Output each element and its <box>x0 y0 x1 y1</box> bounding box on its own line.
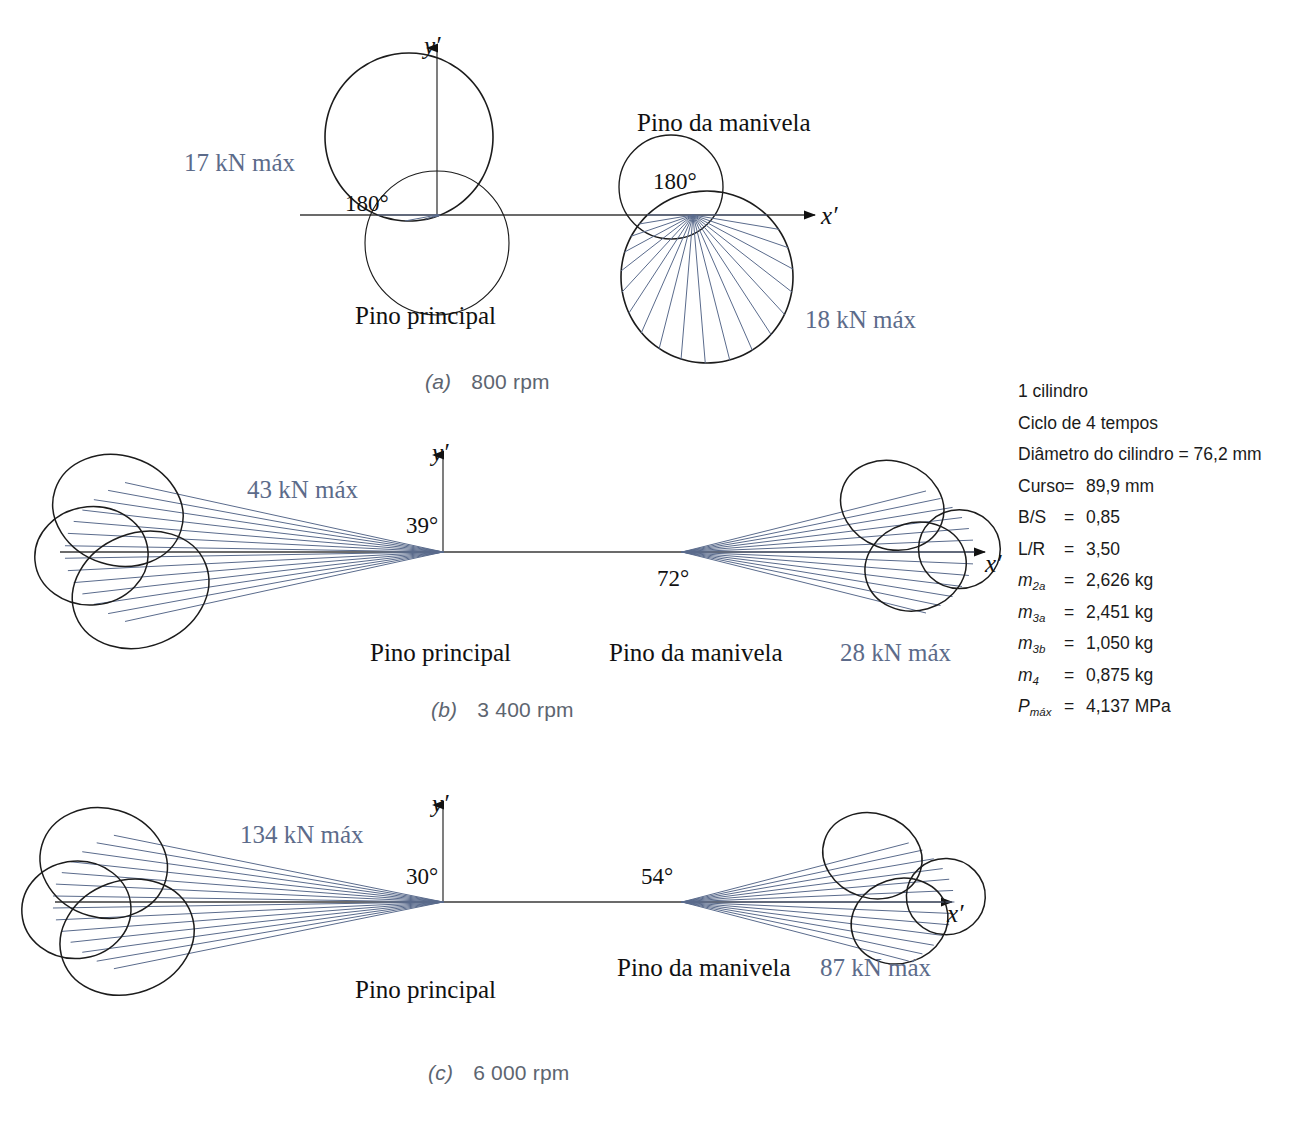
panel-b-caption-letter: (b) <box>431 698 457 721</box>
param-row: m4=0,875 kg <box>1018 665 1262 697</box>
load-ray <box>83 552 443 594</box>
panel-b-y-axis-label: y′ <box>432 440 449 465</box>
param-bore: Diâmetro do cilindro = 76,2 mm <box>1018 444 1262 476</box>
param-value: 2,626 kg <box>1086 570 1153 591</box>
param-value: 0,85 <box>1086 507 1120 528</box>
load-ray <box>83 852 443 902</box>
envelope-circle <box>38 438 198 583</box>
param-value: 89,9 mm <box>1086 476 1154 497</box>
param-symbol: m3a <box>1018 602 1064 623</box>
panel-b-caption: (b) 3 400 rpm <box>431 699 574 720</box>
load-ray <box>682 552 926 613</box>
param-value: 1,050 kg <box>1086 633 1153 654</box>
load-ray <box>71 902 443 942</box>
panel-b-main-pin-name: Pino principal <box>370 640 511 665</box>
param-symbol: L/R <box>1018 539 1064 560</box>
load-ray <box>125 552 443 621</box>
param-symbol: m4 <box>1018 665 1064 686</box>
param-symbol: B/S <box>1018 507 1064 528</box>
panel-b-x-axis-label: x′ <box>985 551 1002 576</box>
param-rows: Curso=89,9 mmB/S=0,85L/R=3,50m2a=2,626 k… <box>1018 476 1262 728</box>
param-row: B/S=0,85 <box>1018 507 1262 539</box>
param-symbol: Pmáx <box>1018 696 1064 717</box>
envelope-circle <box>812 800 934 911</box>
load-ray <box>693 215 784 314</box>
param-row: m3b=1,050 kg <box>1018 633 1262 665</box>
param-equals: = <box>1064 539 1086 560</box>
load-ray <box>109 552 443 614</box>
panel-a-caption-letter: (a) <box>425 370 451 393</box>
panel-c-x-axis-label: x′ <box>947 901 964 926</box>
panel-b-crank-pin-name: Pino da manivela <box>609 640 783 665</box>
param-row: m2a=2,626 kg <box>1018 570 1262 602</box>
panel-c-main-pin-name: Pino principal <box>355 977 496 1002</box>
load-ray <box>682 902 953 914</box>
envelope-circle <box>854 510 976 622</box>
panel-c-crank-pin-name: Pino da manivela <box>617 955 791 980</box>
load-ray <box>97 902 443 961</box>
envelope-curve <box>621 191 793 363</box>
panel-a-caption: (a) 800 rpm <box>425 371 550 392</box>
panel-a-y-axis-label: y′ <box>424 33 441 58</box>
envelope-circle <box>55 511 227 669</box>
param-value: 4,137 MPa <box>1086 696 1171 717</box>
panel-c-main-pin-angle: 30° <box>406 865 438 888</box>
param-value: 2,451 kg <box>1086 602 1153 623</box>
param-symbol: Curso <box>1018 476 1064 497</box>
load-ray <box>71 862 443 902</box>
load-ray <box>682 529 968 552</box>
param-value: 3,50 <box>1086 539 1120 560</box>
load-ray <box>682 491 926 552</box>
param-value: 0,875 kg <box>1086 665 1153 686</box>
param-row: m3a=2,451 kg <box>1018 602 1262 634</box>
param-equals: = <box>1064 602 1086 623</box>
panel-b-main-pin-angle: 39° <box>406 514 438 537</box>
panel-c-main-pin-max-load: 134 kN máx <box>240 822 364 847</box>
panel-c-crank-pin-angle: 54° <box>641 865 673 888</box>
panel-b-crank-pin-angle: 72° <box>657 567 689 590</box>
panel-a-caption-value: 800 rpm <box>471 370 549 393</box>
load-ray <box>621 215 693 271</box>
panel-c-crank-pin-max-load: 87 kN máx <box>820 955 931 980</box>
param-cylinders: 1 cilindro <box>1018 381 1262 413</box>
param-equals: = <box>1064 696 1086 717</box>
panel-a-main-pin-angle: 180° <box>345 192 389 215</box>
load-ray <box>682 890 953 902</box>
load-ray <box>693 215 788 248</box>
param-row: Curso=89,9 mm <box>1018 476 1262 508</box>
param-cycle-text: Ciclo de 4 tempos <box>1018 413 1158 434</box>
param-cycle: Ciclo de 4 tempos <box>1018 413 1262 445</box>
load-ray <box>682 843 908 902</box>
panel-c-caption: (c) 6 000 rpm <box>428 1062 570 1083</box>
load-ray <box>693 215 771 334</box>
envelope-circle <box>828 446 957 564</box>
param-row: Pmáx=4,137 MPa <box>1018 696 1262 728</box>
load-ray <box>682 552 973 564</box>
load-ray <box>114 902 443 969</box>
load-ray <box>682 902 933 945</box>
load-ray <box>682 902 908 961</box>
param-equals: = <box>1064 507 1086 528</box>
panel-b-main-pin-max-load: 43 kN máx <box>247 477 358 502</box>
load-ray <box>682 902 949 925</box>
load-ray <box>83 902 443 952</box>
panel-c-caption-letter: (c) <box>428 1061 453 1084</box>
param-row: L/R=3,50 <box>1018 539 1262 571</box>
load-ray <box>682 540 973 552</box>
panel-c-y-axis-label: y′ <box>432 791 449 816</box>
engine-parameters-block: 1 cilindro Ciclo de 4 tempos Diâmetro do… <box>1018 381 1262 728</box>
param-equals: = <box>1064 570 1086 591</box>
load-ray <box>83 510 443 552</box>
param-equals: = <box>1064 665 1086 686</box>
param-equals: = <box>1064 476 1086 497</box>
panel-a-x-axis-label: x′ <box>821 203 838 228</box>
load-ray <box>622 215 693 292</box>
panel-c-caption-value: 6 000 rpm <box>473 1061 569 1084</box>
load-ray <box>682 552 952 597</box>
param-bore-text: Diâmetro do cilindro = 76,2 mm <box>1018 444 1262 465</box>
envelope-circle <box>44 861 211 1014</box>
panel-a-main-pin-name: Pino principal <box>355 303 496 328</box>
panel-a-crank-pin-angle: 180° <box>653 170 697 193</box>
panel-a-main-pin-max-load: 17 kN máx <box>184 150 295 175</box>
param-symbol: m3b <box>1018 633 1064 654</box>
